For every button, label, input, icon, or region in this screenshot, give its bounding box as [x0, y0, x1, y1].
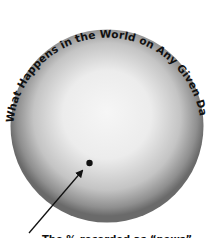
- diagram-canvas: What Happens in the World on Any Given D…: [0, 0, 212, 238]
- news-dot: [86, 160, 92, 166]
- caption: The % recorded as “news”: [42, 234, 192, 238]
